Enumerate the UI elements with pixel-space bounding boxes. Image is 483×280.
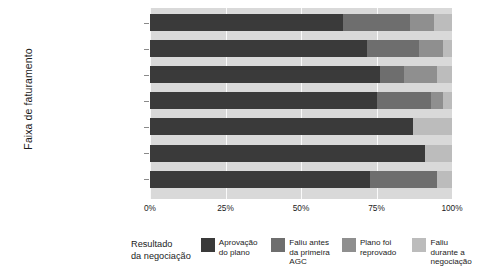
- bar-segment: [413, 118, 452, 135]
- x-tick-label: 75%: [357, 203, 397, 213]
- legend-item-label: Faliu antes da primeira AGC: [289, 238, 333, 267]
- legend-title-line-1: Resultado: [131, 239, 201, 251]
- gridline-100pct: [452, 8, 453, 199]
- legend-item[interactable]: Plano foi reprovado: [342, 238, 404, 257]
- bar-segment: [425, 145, 452, 162]
- bar-segment: [367, 40, 418, 57]
- bar-segment: [434, 14, 452, 31]
- legend-title: Resultado da negociação: [131, 238, 201, 262]
- bar-segment: [410, 14, 434, 31]
- bar-segment: [370, 171, 436, 188]
- legend-swatch-faliu-antes-da-primeira-agc: [271, 238, 285, 252]
- bar-segment: [437, 66, 452, 83]
- category-tick: [144, 75, 149, 76]
- chart-legend: Resultado da negociação Aprovação do pla…: [131, 238, 483, 267]
- bar-row: [150, 171, 452, 188]
- x-tick-label: 50%: [281, 203, 321, 213]
- bar-segment: [150, 145, 425, 162]
- bar-segment: [150, 40, 367, 57]
- bar-segment: [150, 171, 370, 188]
- category-tick: [144, 179, 149, 180]
- bar-row: [150, 66, 452, 83]
- y-axis-title: Faixa de faturamento: [22, 24, 34, 174]
- bar-segment: [380, 66, 404, 83]
- legend-item[interactable]: Faliu durante a negociação: [412, 238, 474, 267]
- bar-segment: [431, 92, 443, 109]
- stacked-bar-chart: Faixa de faturamento Até R$ 1MMEntre R$ …: [0, 0, 483, 280]
- category-tick: [144, 153, 149, 154]
- legend-item-label: Faliu durante a negociação: [430, 238, 474, 267]
- legend-swatch-aprovacao-do-plano: [201, 238, 215, 252]
- bar-segment: [437, 171, 452, 188]
- bar-segment: [443, 92, 452, 109]
- x-tick-label: 25%: [206, 203, 246, 213]
- x-tick-label: 100%: [432, 203, 472, 213]
- category-tick: [144, 101, 149, 102]
- legend-item[interactable]: Faliu antes da primeira AGC: [271, 238, 333, 267]
- bar-segment: [404, 66, 437, 83]
- legend-swatch-plano-foi-reprovado: [342, 238, 356, 252]
- bar-segment: [419, 40, 443, 57]
- bar-row: [150, 145, 452, 162]
- category-tick: [144, 23, 149, 24]
- bars-layer: [150, 8, 452, 199]
- bar-row: [150, 92, 452, 109]
- legend-swatch-faliu-durante-a-negociacao: [412, 238, 426, 252]
- legend-item-label: Aprovação do plano: [219, 238, 263, 257]
- category-tick: [144, 49, 149, 50]
- legend-item-label: Plano foi reprovado: [360, 238, 404, 257]
- bar-segment: [150, 66, 380, 83]
- bar-segment: [150, 14, 343, 31]
- bar-segment: [443, 40, 452, 57]
- bar-row: [150, 14, 452, 31]
- legend-items: Aprovação do planoFaliu antes da primeir…: [201, 238, 483, 267]
- legend-title-line-2: da negociação: [131, 251, 201, 263]
- bar-segment: [343, 14, 409, 31]
- category-tick: [144, 127, 149, 128]
- bar-row: [150, 40, 452, 57]
- legend-item[interactable]: Aprovação do plano: [201, 238, 263, 257]
- bar-segment: [150, 118, 413, 135]
- bar-row: [150, 118, 452, 135]
- x-tick-label: 0%: [130, 203, 170, 213]
- bar-segment: [150, 92, 377, 109]
- bar-segment: [377, 92, 431, 109]
